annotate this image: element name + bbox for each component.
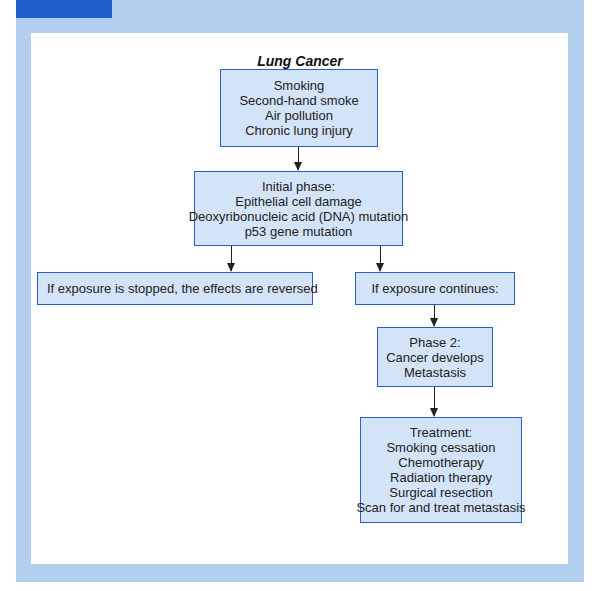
node-line: Metastasis [404,365,466,380]
node-exposure-stopped: If exposure is stopped, the effects are … [37,272,313,305]
node-line: Air pollution [265,108,333,123]
node-line: Chemotherapy [398,455,483,470]
arrow-initial-to-stopped [231,246,232,271]
node-line: If exposure is stopped, the effects are … [47,281,318,296]
node-phase2: Phase 2: Cancer develops Metastasis [377,327,493,387]
node-line: Smoking [274,78,325,93]
node-line: Initial phase: [262,179,335,194]
node-initial-phase: Initial phase: Epithelial cell damage De… [194,171,403,246]
node-causes: Smoking Second-hand smoke Air pollution … [220,69,378,147]
diagram-title: Lung Cancer [0,53,600,69]
node-line: If exposure continues: [371,281,498,296]
node-exposure-continues: If exposure continues: [355,272,515,305]
node-line: p53 gene mutation [245,224,353,239]
arrow-continues-to-phase2 [434,305,435,326]
node-line: Treatment: [410,425,472,440]
header-tab [16,0,112,18]
node-line: Scan for and treat metastasis [356,500,525,515]
arrow-initial-to-continues [380,246,381,271]
arrow-causes-to-initial [298,147,299,170]
node-line: Second-hand smoke [239,93,358,108]
arrow-phase2-to-treatment [434,387,435,416]
node-line: Deoxyribonucleic acid (DNA) mutation [189,209,409,224]
node-line: Cancer develops [386,350,484,365]
node-line: Surgical resection [389,485,492,500]
node-treatment: Treatment: Smoking cessation Chemotherap… [360,417,522,523]
node-line: Chronic lung injury [245,123,353,138]
node-line: Epithelial cell damage [235,194,361,209]
node-line: Smoking cessation [386,440,495,455]
node-line: Radiation therapy [390,470,492,485]
node-line: Phase 2: [409,335,460,350]
